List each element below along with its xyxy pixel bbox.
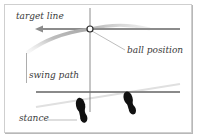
right-foot-icon <box>122 90 138 116</box>
arrowhead-icon <box>35 26 43 33</box>
stance-label: stance <box>19 114 49 123</box>
foot-alignment-line <box>36 84 180 107</box>
target-line-label: target line <box>16 12 64 21</box>
ball-position-leader <box>92 31 125 50</box>
golf-stance-diagram: target line ball position swing path sta… <box>0 0 198 140</box>
ball-position-label: ball position <box>127 46 183 55</box>
swing-path-label: swing path <box>29 71 79 80</box>
swing-path-curve <box>28 29 90 52</box>
ball-icon <box>87 26 93 32</box>
